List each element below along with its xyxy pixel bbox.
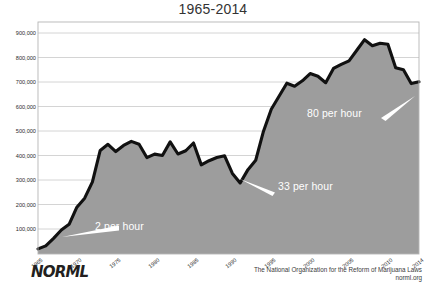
credit-url: norml.org [254,274,422,282]
y-tick-label: 100,000 [2,226,36,232]
y-tick-label: 200,000 [2,202,36,208]
arrests-area-chart [0,0,426,286]
y-tick-label: 800,000 [2,55,36,61]
y-tick-label: 300,000 [2,177,36,183]
chart-figure: 1965-2014 100,000200,000300,000400,00050… [0,0,426,286]
y-axis-ticks: 100,000200,000300,000400,000500,000600,0… [0,0,36,286]
credit-organization: The National Organization for the Reform… [254,266,422,274]
annotation-rate-2007: 80 per hour [307,107,362,119]
y-tick-label: 900,000 [2,30,36,36]
y-tick-label: 600,000 [2,104,36,110]
norml-logo: NORML [31,263,88,281]
annotation-rate-1991: 33 per hour [278,180,333,192]
annotation-rate-1965: 2 per hour [95,220,144,232]
credit-block: The National Organization for the Reform… [254,266,422,282]
y-tick-label: 500,000 [2,128,36,134]
y-tick-label: 400,000 [2,153,36,159]
y-tick-label: 700,000 [2,79,36,85]
